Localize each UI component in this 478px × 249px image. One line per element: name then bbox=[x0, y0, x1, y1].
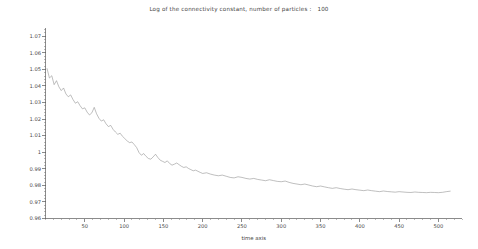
y-tick-label: 1.03 bbox=[8, 99, 41, 105]
y-tick-label: 0.98 bbox=[8, 182, 41, 188]
chart-figure: Log of the connectivity constant, number… bbox=[0, 0, 478, 249]
chart-canvas bbox=[0, 0, 478, 249]
x-tick-label: 450 bbox=[385, 223, 413, 229]
y-tick-label: 0.99 bbox=[8, 166, 41, 172]
x-axis-title: time axis bbox=[214, 235, 294, 241]
y-tick-label: 1.05 bbox=[8, 66, 41, 72]
y-tick-label: 1.01 bbox=[8, 132, 41, 138]
y-tick-label: 1.02 bbox=[8, 116, 41, 122]
x-tick-label: 100 bbox=[110, 223, 138, 229]
x-tick-label: 300 bbox=[267, 223, 295, 229]
axes-group bbox=[42, 28, 462, 222]
x-tick-label: 50 bbox=[71, 223, 99, 229]
data-series-group bbox=[47, 69, 450, 193]
y-tick-label: 0.97 bbox=[8, 199, 41, 205]
x-tick-label: 250 bbox=[228, 223, 256, 229]
y-tick-label: 1.06 bbox=[8, 50, 41, 56]
x-tick-label: 200 bbox=[189, 223, 217, 229]
y-tick-label: 1 bbox=[8, 149, 41, 155]
y-tick-label: 1.04 bbox=[8, 83, 41, 89]
x-tick-label: 400 bbox=[346, 223, 374, 229]
x-tick-label: 500 bbox=[424, 223, 452, 229]
data-line-0 bbox=[47, 69, 450, 193]
x-tick-label: 150 bbox=[149, 223, 177, 229]
y-tick-label: 0.96 bbox=[8, 215, 41, 221]
x-tick-label: 350 bbox=[307, 223, 335, 229]
y-tick-label: 1.07 bbox=[8, 33, 41, 39]
